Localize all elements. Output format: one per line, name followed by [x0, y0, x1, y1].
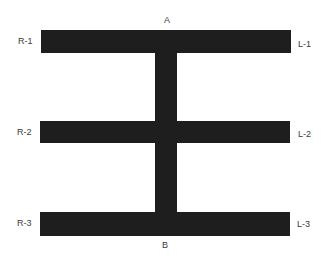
label-l2: L-2 [298, 130, 311, 139]
label-bottom-b: B [162, 241, 168, 250]
label-top-a: A [164, 16, 170, 25]
label-l3: L-3 [297, 220, 310, 229]
label-r3: R-3 [17, 219, 32, 228]
label-l1: L-1 [298, 40, 311, 49]
label-r2: R-2 [17, 128, 32, 137]
vertical-stem [155, 30, 177, 236]
label-r1: R-1 [18, 37, 33, 46]
